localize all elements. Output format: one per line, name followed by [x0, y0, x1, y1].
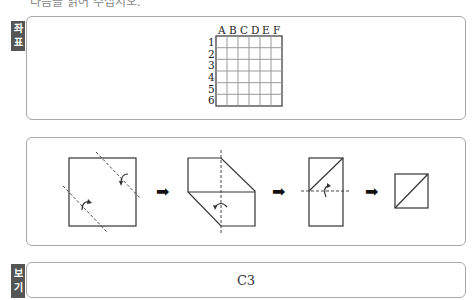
answer-tag: 보 기	[11, 264, 25, 298]
coordinate-tag-char-2: 표	[14, 36, 23, 50]
answer-tag-char-2: 기	[14, 281, 23, 295]
header-partial-text: 다음을 읽어 주십시오.	[30, 0, 140, 9]
answer-value: C3	[27, 263, 465, 297]
coordinate-tag: 좌 표	[11, 21, 25, 51]
coordinate-tag-char-1: 좌	[14, 22, 23, 36]
folding-panel	[26, 137, 466, 246]
coordinate-panel	[26, 16, 466, 120]
answer-panel: C3	[26, 262, 466, 298]
answer-tag-char-1: 보	[14, 267, 23, 281]
